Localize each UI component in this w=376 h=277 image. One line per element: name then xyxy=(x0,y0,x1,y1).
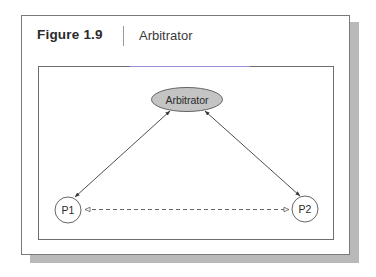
node-label-arbitrator: Arbitrator xyxy=(165,94,209,106)
node-p1: P1 xyxy=(55,197,81,223)
edge-arbitrator-p2 xyxy=(205,111,300,196)
node-arbitrator: Arbitrator xyxy=(152,88,223,112)
node-p2: P2 xyxy=(292,196,318,222)
edge-arbitrator-p1 xyxy=(75,111,170,197)
node-label-p2: P2 xyxy=(299,203,312,215)
diagram-canvas: Arbitrator P1 P2 xyxy=(0,0,376,277)
node-label-p1: P1 xyxy=(62,204,75,216)
